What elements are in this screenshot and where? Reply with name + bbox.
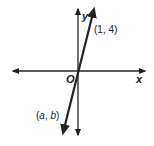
point-label-1-4: (1, 4) <box>94 25 117 35</box>
x-axis-label: x <box>136 74 142 85</box>
paren-close: ) <box>56 110 59 121</box>
origin-label: O <box>66 74 75 85</box>
coordinate-plane-diagram: y x O (1, 4) (a, b) <box>0 0 154 146</box>
plane-graphic <box>0 0 154 146</box>
point-label-a-b: (a, b) <box>36 111 59 121</box>
y-axis-label: y <box>82 11 88 22</box>
